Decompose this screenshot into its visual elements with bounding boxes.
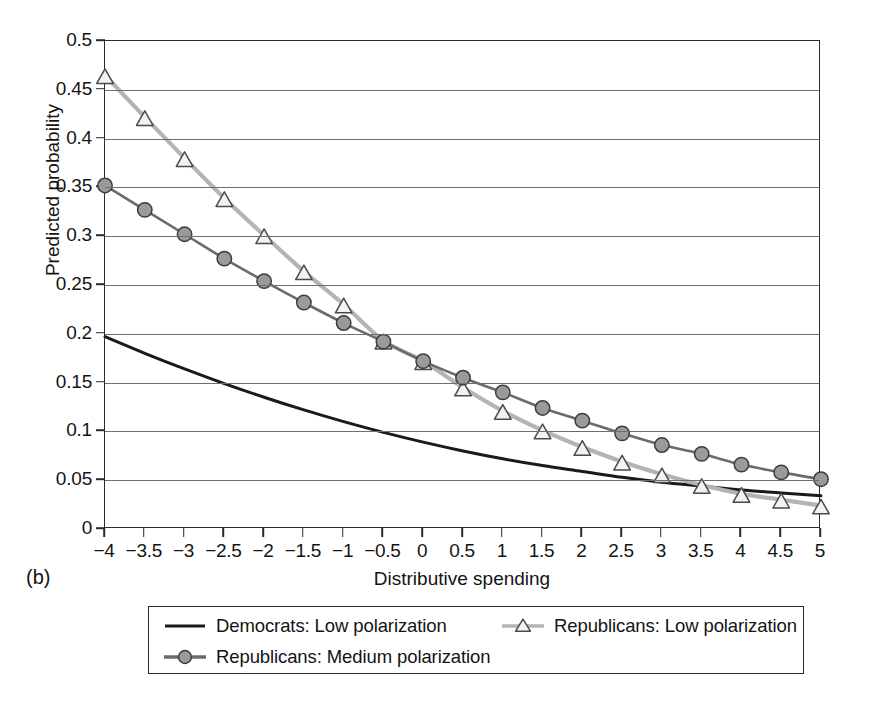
legend-swatch-none-icon [163,616,207,636]
x-tick-label: −4 [93,540,114,562]
x-tick-mark [143,528,145,537]
series-circle-2 [98,178,828,486]
x-tick-mark [223,528,225,537]
data-point-marker-circle [177,227,191,241]
x-tick-mark [740,528,742,537]
y-tick-label: 0 [82,517,92,539]
x-tick-mark [501,528,503,537]
x-tick-label: −0.5 [364,540,400,562]
x-tick-label: 4 [735,540,745,562]
data-point-marker-circle [336,316,350,330]
x-tick-label: −2 [253,540,274,562]
x-tick-label: −3.5 [126,540,162,562]
series-line [105,75,821,505]
x-tick-mark [183,528,185,537]
series-none-0 [105,337,821,496]
legend-entry[interactable]: Republicans: Low polarization [501,615,797,637]
gridline [105,431,819,432]
x-tick-label: 5 [815,540,825,562]
x-tick-label: 1.5 [529,540,555,562]
x-tick-mark [421,528,423,537]
gridline [105,334,819,335]
x-tick-label: −3 [173,540,194,562]
data-point-marker-circle [655,438,669,452]
gridline [105,480,819,481]
legend-swatch-circle-icon [163,647,207,667]
data-point-marker-circle [575,413,589,427]
x-axis-title: Distributive spending [104,568,820,590]
x-tick-mark [541,528,543,537]
data-point-marker-circle [217,251,231,265]
x-tick-label: 0.5 [449,540,475,562]
panel-label: (b) [26,566,50,589]
x-tick-mark [660,528,662,537]
data-point-marker-circle [734,457,748,471]
data-point-marker-circle [535,401,549,415]
series-triangle-1 [97,69,830,514]
chart-legend: Democrats: Low polarizationRepublicans: … [148,606,804,674]
legend-row: Republicans: Medium polarization [149,642,803,672]
x-tick-label: −2.5 [205,540,241,562]
y-tick-label: 0.5 [66,29,92,51]
legend-label: Republicans: Medium polarization [216,646,490,668]
x-tick-label: 1 [497,540,507,562]
gridline [105,285,819,286]
data-point-marker-circle [694,447,708,461]
x-tick-label: 4.5 [767,540,793,562]
x-tick-label: 2.5 [608,540,634,562]
legend-entry[interactable]: Republicans: Medium polarization [163,646,490,668]
data-point-marker-circle [496,385,510,399]
x-tick-mark [382,528,384,537]
x-tick-mark [819,528,821,537]
x-tick-label: 0 [417,540,427,562]
y-tick-label: 0.3 [66,224,92,246]
data-point-marker-circle [257,274,271,288]
data-point-marker-circle [774,465,788,479]
gridline [105,383,819,384]
legend-row: Democrats: Low polarizationRepublicans: … [149,611,803,641]
data-point-marker-circle [138,203,152,217]
legend-label: Republicans: Low polarization [554,615,797,637]
y-tick-label: 0.1 [66,419,92,441]
gridline [105,236,819,237]
series-line [105,185,821,479]
x-tick-mark [342,528,344,537]
legend-entry[interactable]: Democrats: Low polarization [163,615,447,637]
x-tick-label: −1.5 [285,540,321,562]
y-tick-label: 0.2 [66,322,92,344]
plot-area [104,40,820,528]
data-point-marker-circle [297,295,311,309]
x-tick-mark [620,528,622,537]
figure-panel-b: 00.050.10.150.20.250.30.350.40.450.5 Pre… [0,0,872,718]
x-tick-label: −1 [332,540,353,562]
x-tick-mark [103,528,105,537]
y-tick-label: 0.4 [66,127,92,149]
x-tick-mark [262,528,264,537]
x-tick-label: 3 [656,540,666,562]
x-tick-label: 3.5 [688,540,714,562]
x-tick-mark [461,528,463,537]
gridline [105,187,819,188]
data-point-marker-circle [376,334,390,348]
y-tick-label: 0.15 [56,371,92,393]
x-tick-label: 2 [576,540,586,562]
gridline [105,90,819,91]
series-line [105,337,821,496]
y-axis-title: Predicted probability [42,30,70,350]
x-tick-mark [302,528,304,537]
legend-swatch-triangle-icon [501,616,545,636]
gridline [105,139,819,140]
data-point-marker-circle [416,354,430,368]
legend-label: Democrats: Low polarization [216,615,447,637]
x-tick-mark [581,528,583,537]
x-tick-mark [700,528,702,537]
data-point-marker-circle [615,426,629,440]
data-point-marker-circle [98,178,112,192]
y-tick-label: 0.05 [56,468,92,490]
x-tick-mark [779,528,781,537]
